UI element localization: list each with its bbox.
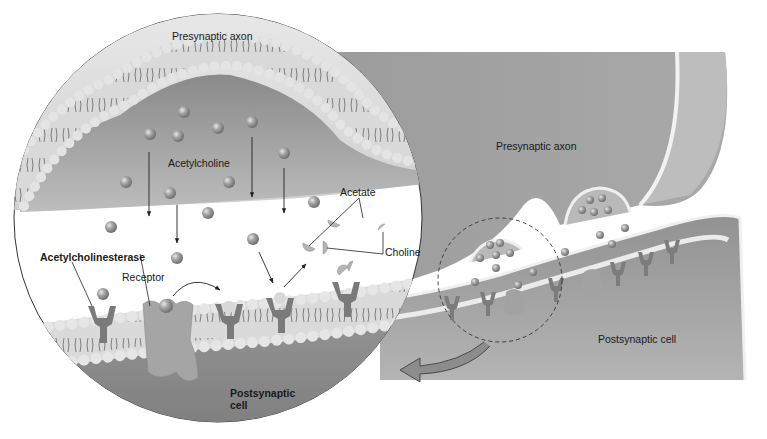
label-receptor: Receptor xyxy=(122,271,165,283)
label-presynaptic-axon-zoom: Presynaptic axon xyxy=(172,30,253,42)
label-acetylcholinesterase: Acetylcholinesterase xyxy=(40,251,145,263)
synapse-diagram: Presynaptic axon Acetylcholine Acetate C… xyxy=(0,0,767,439)
label-acetylcholine: Acetylcholine xyxy=(168,157,230,169)
label-postsynaptic-cell-zoom: Postsynaptic cell xyxy=(230,387,295,411)
label-postsynaptic-cell-overview: Postsynaptic cell xyxy=(598,333,676,345)
label-postsynaptic-line1: Postsynaptic xyxy=(230,387,295,399)
diagram-canvas xyxy=(0,0,767,439)
label-postsynaptic-line2: cell xyxy=(230,399,295,411)
label-choline: Choline xyxy=(385,246,421,258)
label-acetate: Acetate xyxy=(340,186,376,198)
label-presynaptic-axon-overview: Presynaptic axon xyxy=(496,140,577,152)
